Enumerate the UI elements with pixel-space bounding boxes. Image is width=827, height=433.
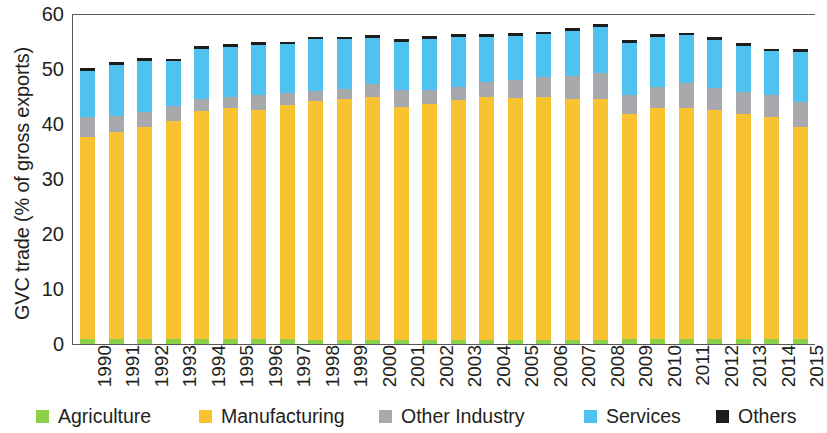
bar-1990[interactable] [80,68,95,344]
y-tick-label: 50 [18,59,64,79]
legend-label: Others [738,406,797,426]
bar-segment-other-industry [650,87,665,108]
bar-2007[interactable] [565,28,580,344]
x-tick-label-1992: 1992 [152,345,171,401]
bar-1991[interactable] [109,62,124,344]
bar-1994[interactable] [194,46,209,344]
bar-segment-services [137,61,152,112]
bar-segment-services [707,40,722,88]
legend-label: Agriculture [58,406,151,426]
bar-segment-other-industry [707,88,722,110]
square-swatch-icon [36,410,49,423]
bar-2002[interactable] [422,36,437,344]
bar-segment-other-industry [308,91,323,101]
bar-segment-agriculture [422,340,437,344]
bar-segment-services [508,36,523,80]
x-tick-label-1998: 1998 [323,345,342,401]
bar-segment-manufacturing [137,127,152,338]
bar-segment-services [308,39,323,91]
legend-label: Other Industry [401,406,525,426]
bar-2012[interactable] [707,37,722,344]
bar-segment-other-industry [280,93,295,105]
bar-segment-services [337,39,352,89]
bar-segment-agriculture [479,340,494,344]
bar-1993[interactable] [166,59,181,344]
x-tick-label-1995: 1995 [237,345,256,401]
bar-2010[interactable] [650,34,665,344]
x-tick-label-2010: 2010 [665,345,684,401]
bar-segment-services [565,31,580,76]
bar-segment-other-industry [593,73,608,98]
legend-item-others[interactable]: Others [716,406,797,426]
bar-1997[interactable] [280,42,295,344]
bar-segment-manufacturing [422,104,437,339]
bar-segment-other-industry [137,112,152,127]
bar-segment-manufacturing [764,117,779,339]
bar-segment-agriculture [394,340,409,344]
bar-segment-services [622,43,637,96]
bar-segment-manufacturing [536,97,551,340]
x-tick-label-2015: 2015 [807,345,826,401]
bar-segment-manufacturing [365,97,380,340]
bar-segment-services [365,38,380,84]
bar-segment-services [223,47,238,97]
bar-segment-manufacturing [479,97,494,340]
bar-segment-agriculture [280,339,295,344]
bar-2013[interactable] [736,43,751,344]
bar-segment-agriculture [251,339,266,344]
x-tick-label-2001: 2001 [408,345,427,401]
x-tick-label-1990: 1990 [95,345,114,401]
bar-segment-other-industry [679,83,694,108]
x-tick-label-2000: 2000 [380,345,399,401]
x-tick-label-2009: 2009 [636,345,655,401]
bar-segment-manufacturing [793,127,808,339]
bar-segment-agriculture [451,340,466,344]
bar-2003[interactable] [451,34,466,344]
legend-label: Services [606,406,681,426]
bar-segment-agriculture [194,339,209,344]
bar-segment-agriculture [707,339,722,344]
bar-segment-services [536,34,551,76]
bar-1996[interactable] [251,42,266,344]
x-tick-label-2011: 2011 [693,345,712,401]
bar-2000[interactable] [365,35,380,344]
bar-segment-services [251,45,266,95]
legend-item-agriculture[interactable]: Agriculture [36,406,151,426]
bar-segment-other-industry [251,95,266,110]
bar-segment-manufacturing [166,121,181,339]
bar-segment-services [109,65,124,116]
legend-item-services[interactable]: Services [584,406,681,426]
bar-2014[interactable] [764,49,779,344]
bar-2006[interactable] [536,32,551,344]
bar-2008[interactable] [593,24,608,344]
bar-2009[interactable] [622,40,637,344]
bar-2001[interactable] [394,39,409,344]
x-tick-label-2013: 2013 [750,345,769,401]
bar-2004[interactable] [479,34,494,344]
bar-segment-agriculture [365,340,380,344]
bar-segment-manufacturing [109,132,124,339]
bar-segment-other-industry [764,95,779,117]
x-tick-label-2008: 2008 [608,345,627,401]
bar-1999[interactable] [337,37,352,344]
legend-item-other-industry[interactable]: Other Industry [379,406,525,426]
bar-segment-manufacturing [80,137,95,339]
legend-item-manufacturing[interactable]: Manufacturing [199,406,345,426]
bar-segment-manufacturing [736,114,751,339]
bar-2011[interactable] [679,33,694,344]
x-tick-label-1993: 1993 [180,345,199,401]
bar-segment-manufacturing [565,99,580,339]
bar-segment-agriculture [622,339,637,344]
bar-1995[interactable] [223,44,238,344]
bar-1998[interactable] [308,37,323,344]
bar-segment-other-industry [736,92,751,115]
bar-1992[interactable] [137,58,152,344]
x-axis-tick-labels: 1990199119921993199419951996199719981999… [74,349,815,401]
bar-segment-other-industry [80,117,95,137]
bar-2015[interactable] [793,49,808,344]
x-tick-label-2014: 2014 [779,345,798,401]
bar-2005[interactable] [508,33,523,344]
bar-segment-agriculture [109,339,124,345]
bars-container [74,14,815,344]
